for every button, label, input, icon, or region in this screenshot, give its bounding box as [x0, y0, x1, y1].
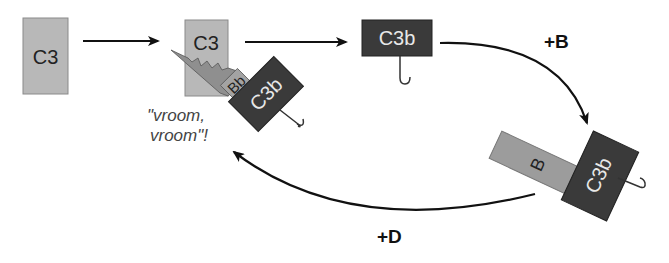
vroom-annotation-line1: "vroom, — [147, 106, 205, 125]
arrow-plus-b — [440, 43, 587, 123]
c3b-free-node: C3b — [362, 20, 432, 56]
c3b-bound-node: C3b — [561, 131, 638, 221]
c3b-free-label: C3b — [379, 27, 416, 49]
hook-tip — [297, 119, 303, 125]
plus-b-label: +B — [544, 31, 569, 52]
hook-icon — [400, 56, 410, 84]
vroom-annotation-line2: vroom"! — [150, 126, 208, 145]
c3-convertase-cycle-diagram: C3 C3 Bb C3b "vroom, vroom"! C3b +B B — [0, 0, 669, 263]
c3-cleaving-label: C3 — [193, 32, 219, 54]
c3-initial-label: C3 — [33, 46, 59, 68]
arrow-plus-d — [234, 152, 535, 210]
plus-d-label: +D — [377, 226, 402, 247]
c3-initial-node: C3 — [23, 18, 68, 94]
